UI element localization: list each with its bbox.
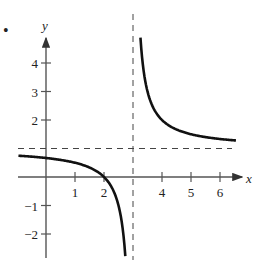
x-tick-label: 2 xyxy=(101,185,108,200)
y-tick-label: −2 xyxy=(24,227,38,242)
curves xyxy=(18,38,236,256)
y-tick-label: −1 xyxy=(24,199,38,214)
x-tick-label: 4 xyxy=(159,185,166,200)
right-branch-curve xyxy=(140,38,236,141)
x-tick-label: 6 xyxy=(217,185,224,200)
y-tick-label: 2 xyxy=(32,113,39,128)
tick-labels: 12456−2−1234xy xyxy=(24,18,252,242)
y-axis-label: y xyxy=(40,18,48,33)
y-tick-label: 3 xyxy=(32,85,39,100)
y-tick-label: 4 xyxy=(32,56,39,71)
x-tick-label: 5 xyxy=(188,185,195,200)
x-axis-label: x xyxy=(245,171,252,186)
x-tick-label: 1 xyxy=(72,185,79,200)
rational-function-graph: • 12456−2−1234xy xyxy=(0,0,253,275)
bullet-marker: • xyxy=(3,22,9,39)
